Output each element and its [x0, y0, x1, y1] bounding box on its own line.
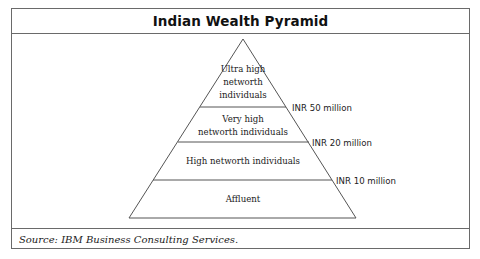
tier-label-affluent: Affluent [193, 193, 293, 206]
tier-label-line: Very high [188, 113, 298, 126]
tier-label-ultra-high: Ultra high networth individuals [203, 63, 283, 102]
tier-label-high: High networth individuals [168, 155, 318, 168]
tier-label-line: High networth individuals [168, 155, 318, 168]
tier-label-line: networth [203, 76, 283, 89]
tier-label-very-high: Very high networth individuals [188, 113, 298, 139]
tier-label-line: individuals [203, 89, 283, 102]
tier-label-line: Affluent [193, 193, 293, 206]
threshold-10m: INR 10 million [336, 176, 396, 186]
threshold-20m: INR 20 million [312, 138, 372, 148]
threshold-50m: INR 50 million [292, 103, 352, 113]
tier-label-line: networth individuals [188, 126, 298, 139]
tier-label-line: Ultra high [203, 63, 283, 76]
